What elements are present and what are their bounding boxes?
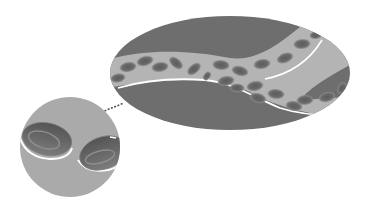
cells-inset-view — [19, 97, 131, 197]
vessel-magnified-view — [100, 10, 360, 140]
blood-vessel-illustration — [0, 0, 368, 214]
